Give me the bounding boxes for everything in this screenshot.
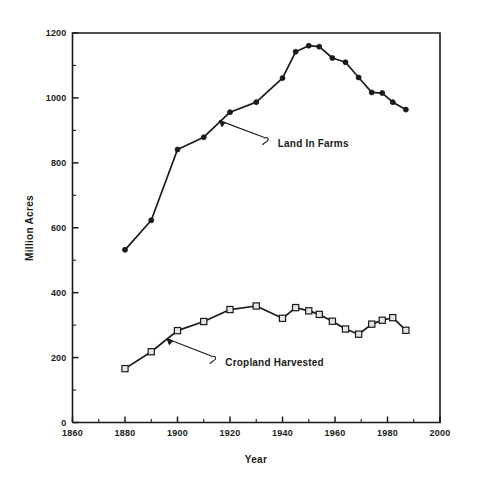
x-tick-label: 1920: [220, 428, 241, 438]
data-point-marker: [356, 75, 361, 80]
data-point-marker: [293, 304, 299, 310]
y-tick-label: 600: [51, 223, 67, 233]
data-point-marker: [279, 315, 285, 321]
data-point-marker: [306, 308, 312, 314]
data-point-marker: [379, 317, 385, 323]
data-point-marker: [329, 318, 335, 324]
annotation-arrowhead: [220, 121, 226, 127]
data-point-marker: [306, 43, 311, 48]
data-point-marker: [403, 327, 409, 333]
annotation-squiggle: [210, 356, 216, 364]
data-point-marker: [369, 90, 374, 95]
x-tick-label: 1880: [115, 428, 136, 438]
x-tick-label: 1860: [62, 428, 83, 438]
data-point-marker: [254, 100, 259, 105]
y-tick-label: 1200: [46, 28, 67, 38]
y-axis-major-ticks: [73, 33, 79, 423]
data-point-marker: [356, 331, 362, 337]
y-tick-label: 800: [51, 158, 67, 168]
data-point-marker: [380, 91, 385, 96]
data-point-marker: [342, 326, 348, 332]
y-tick-label: 0: [61, 418, 66, 428]
data-point-marker: [201, 135, 206, 140]
data-point-marker: [201, 318, 207, 324]
y-tick-label: 200: [51, 353, 67, 363]
data-point-marker: [293, 49, 298, 54]
x-axis-tick-labels: 18601880190019201940196019802000: [62, 428, 450, 438]
data-point-marker: [330, 55, 335, 60]
data-point-marker: [343, 60, 348, 65]
y-axis-tick-labels: 020040060080010001200: [46, 28, 67, 428]
annotation-label: Cropland Harvested: [225, 357, 324, 368]
x-axis-title: Year: [245, 454, 267, 465]
data-point-marker: [123, 247, 128, 252]
data-point-marker: [317, 44, 322, 49]
annotation-2: Cropland Harvested: [167, 339, 324, 368]
series-1: [123, 43, 409, 252]
y-axis-title: Million Acres: [24, 195, 35, 261]
chart-annotations: Land In FarmsCropland Harvested: [167, 121, 349, 368]
data-point-marker: [253, 303, 259, 309]
annotation-leader-line: [220, 121, 264, 138]
y-tick-label: 1000: [46, 93, 67, 103]
data-point-marker: [280, 76, 285, 81]
data-point-marker: [390, 100, 395, 105]
x-tick-label: 1960: [325, 428, 346, 438]
annotation-squiggle: [263, 138, 269, 146]
annotation-arrowhead: [167, 339, 173, 345]
annotation-leader-line: [167, 339, 211, 356]
series-line: [125, 46, 406, 250]
data-point-marker: [122, 366, 128, 372]
line-chart-canvas: 020040060080010001200 186018801900192019…: [0, 0, 478, 486]
x-tick-label: 1900: [167, 428, 188, 438]
x-tick-label: 1940: [272, 428, 293, 438]
annotation-1: Land In Farms: [220, 121, 349, 150]
data-point-marker: [148, 349, 154, 355]
x-tick-label: 2000: [430, 428, 451, 438]
data-point-marker: [228, 110, 233, 115]
annotation-label: Land In Farms: [278, 138, 349, 149]
data-point-marker: [316, 311, 322, 317]
x-tick-label: 1980: [377, 428, 398, 438]
y-tick-label: 400: [51, 288, 67, 298]
data-point-marker: [175, 147, 180, 152]
chart-figure: 020040060080010001200 186018801900192019…: [0, 0, 478, 486]
data-point-marker: [174, 328, 180, 334]
data-point-marker: [369, 321, 375, 327]
data-point-marker: [149, 218, 154, 223]
data-series-group: [122, 43, 409, 372]
data-point-marker: [390, 315, 396, 321]
data-point-marker: [403, 107, 408, 112]
data-point-marker: [227, 306, 233, 312]
